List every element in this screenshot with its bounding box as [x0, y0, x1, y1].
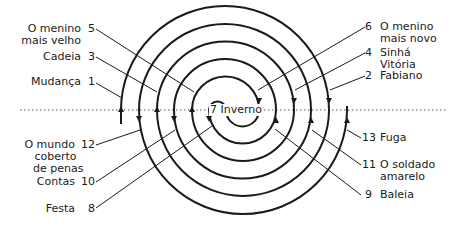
- chapter-title: Inverno: [221, 103, 263, 116]
- chapter-label-5: O menino mais velho: [21, 23, 81, 47]
- chapter-number-13: 13: [362, 132, 376, 144]
- chapter-label-3: Cadeia: [43, 51, 81, 63]
- chapter-number-6: 6: [365, 21, 372, 33]
- chapter-number-8: 8: [88, 203, 95, 215]
- chapter-label-11: O soldado amarelo: [380, 159, 435, 183]
- chapter-number-3: 3: [88, 51, 95, 63]
- chapter-label-8: Festa: [46, 203, 75, 215]
- chapter-number: 7: [210, 103, 217, 116]
- chapter-number-10: 10: [81, 176, 95, 188]
- chapter-label-13: Fuga: [380, 132, 406, 144]
- chapter-label-6: O menino mais novo: [380, 21, 437, 45]
- chapter-number-11: 11: [362, 159, 376, 171]
- chapter-number-5: 5: [88, 23, 95, 35]
- chapter-label-12-cont: coberto de penas: [33, 151, 78, 175]
- chapter-label-9: Baleia: [380, 189, 414, 201]
- spiral-arm-outward: [139, 24, 347, 214]
- spiral-arm-inward: [121, 6, 329, 196]
- chapter-number-4: 4: [365, 47, 372, 59]
- chapter-number-9: 9: [365, 189, 372, 201]
- center-chapter-label: 7 Inverno: [209, 104, 263, 116]
- chapter-label-10: Contas: [37, 176, 75, 188]
- chapter-label-1: Mudança: [31, 76, 81, 88]
- chapter-label-4: Sinhá Vitória: [380, 47, 416, 71]
- chapter-number-2: 2: [365, 70, 372, 82]
- chapter-number-1: 1: [88, 76, 95, 88]
- chapter-number-12: 12: [81, 139, 95, 151]
- chapter-label-2: Fabiano: [380, 70, 423, 82]
